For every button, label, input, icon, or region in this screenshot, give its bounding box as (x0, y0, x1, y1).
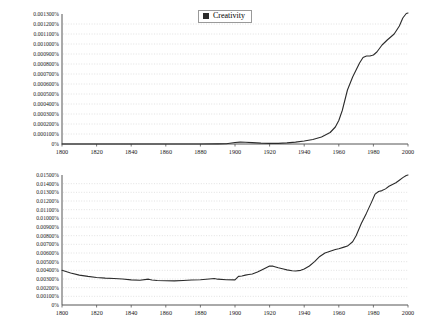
y-axis-tick-label: 0.01500% (36, 172, 59, 178)
y-axis-tick-label: 0.01000% (36, 215, 59, 221)
y-axis-tick-label: 0.000100% (33, 131, 59, 137)
y-axis-tick-label: 0.00300% (36, 276, 59, 282)
x-axis-tick-label: 1920 (263, 148, 275, 155)
ngram-viewer-page: 0%0.000100%0.000200%0.000300%0.000400%0.… (0, 0, 424, 322)
y-axis-tick-label: 0.000600% (33, 81, 59, 87)
y-axis-tick-label: 0% (52, 302, 60, 308)
x-axis-tick-label: 1940 (298, 148, 310, 155)
creativity-chart-svg[interactable]: 0%0.000100%0.000200%0.000300%0.000400%0.… (0, 0, 424, 161)
x-axis-tick-label: 1820 (90, 148, 102, 155)
y-axis-tick-label: 0.00700% (36, 241, 59, 247)
legend-swatch-icon (203, 13, 209, 19)
legend-creativity[interactable]: Creativity (198, 10, 252, 23)
x-axis-tick-label: 1860 (160, 309, 172, 316)
y-axis-tick-label: 0.001200% (33, 21, 59, 27)
y-axis-tick-label: 0.001000% (33, 41, 59, 47)
x-axis-tick-label: 1880 (194, 148, 206, 155)
x-axis-tick-label: 1840 (125, 309, 137, 316)
chart-block-management: 0%0.00100%0.00200%0.00300%0.00400%0.0050… (0, 161, 424, 322)
y-axis-tick-label: 0% (52, 141, 60, 147)
y-axis-tick-label: 0.00100% (36, 293, 59, 299)
legend-label-creativity: Creativity (213, 12, 245, 20)
y-axis-tick-label: 0.00800% (36, 233, 59, 239)
y-axis-tick-label: 0.001300% (33, 11, 59, 17)
x-axis-tick-label: 2000 (402, 309, 414, 316)
y-axis-tick-label: 0.00400% (36, 267, 59, 273)
y-axis-tick-label: 0.01400% (36, 181, 59, 187)
y-axis-tick-label: 0.000500% (33, 91, 59, 97)
y-axis-tick-label: 0.00200% (36, 285, 59, 291)
management-chart-svg[interactable]: 0%0.00100%0.00200%0.00300%0.00400%0.0050… (0, 161, 424, 322)
series-line-creativity (62, 13, 408, 144)
y-axis-tick-label: 0.000200% (33, 121, 59, 127)
x-axis-tick-label: 1800 (56, 309, 68, 316)
y-axis-tick-label: 0.01100% (36, 207, 59, 213)
series-line-management (62, 175, 408, 281)
chart-block-creativity: 0%0.000100%0.000200%0.000300%0.000400%0.… (0, 0, 424, 161)
x-axis-tick-label: 1980 (367, 148, 379, 155)
x-axis-tick-label: 1940 (298, 309, 310, 316)
y-axis-tick-label: 0.000300% (33, 111, 59, 117)
x-axis-tick-label: 1960 (333, 309, 345, 316)
y-axis-tick-label: 0.00600% (36, 250, 59, 256)
x-axis-tick-label: 1860 (160, 148, 172, 155)
x-axis-tick-label: 1920 (263, 309, 275, 316)
y-axis-tick-label: 0.000700% (33, 71, 59, 77)
y-axis-tick-label: 0.01300% (36, 189, 59, 195)
y-axis-tick-label: 0.000400% (33, 101, 59, 107)
x-axis-tick-label: 1820 (90, 309, 102, 316)
y-axis-tick-label: 0.001100% (34, 31, 60, 37)
y-axis-tick-label: 0.000900% (33, 51, 59, 57)
x-axis-tick-label: 1800 (56, 148, 68, 155)
x-axis-tick-label: 1900 (229, 309, 241, 316)
x-axis-tick-label: 2000 (402, 148, 414, 155)
y-axis-tick-label: 0.00900% (36, 224, 59, 230)
y-axis-tick-label: 0.01200% (36, 198, 59, 204)
y-axis-tick-label: 0.000800% (33, 61, 59, 67)
x-axis-tick-label: 1840 (125, 148, 137, 155)
x-axis-tick-label: 1960 (333, 148, 345, 155)
x-axis-tick-label: 1880 (194, 309, 206, 316)
x-axis-tick-label: 1980 (367, 309, 379, 316)
x-axis-tick-label: 1900 (229, 148, 241, 155)
y-axis-tick-label: 0.00500% (36, 259, 59, 265)
